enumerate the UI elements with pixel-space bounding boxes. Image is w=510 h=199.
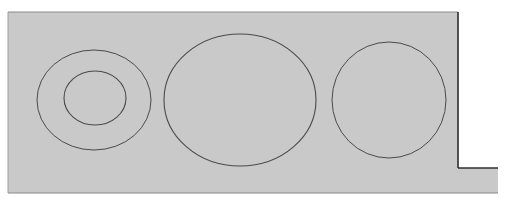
gray-panel (8, 12, 498, 193)
diagram-canvas (0, 0, 510, 199)
